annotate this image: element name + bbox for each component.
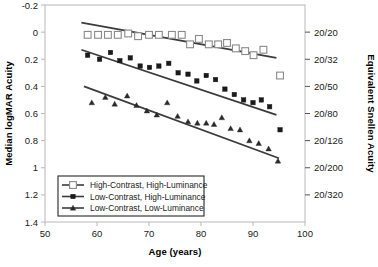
data-point-filled-square [71,194,75,198]
y-tick-label: 0.2 [25,54,38,65]
x-axis-title: Age (years) [149,246,202,257]
data-point-filled-square [213,77,217,81]
x-tick-label: 70 [144,228,155,239]
legend-label-2: Low-Contrast, Low-Luminance [90,203,204,213]
data-point-open-square [187,41,194,48]
data-point-open-square [146,31,153,38]
y-axis-title: Median logMAR Acuity [3,61,14,166]
data-point-open-square [105,31,112,38]
data-point-filled-square [204,73,208,77]
x-tick-label: 90 [248,228,259,239]
y2-tick-label: 20/20 [314,27,338,38]
data-point-filled-square [186,72,190,76]
data-point-open-square [232,45,239,52]
data-point-filled-square [128,56,132,60]
data-point-filled-square [85,53,89,57]
y2-tick-label: 20/126 [314,135,343,146]
data-point-open-square [277,72,284,79]
y-tick-label: 1.2 [25,189,38,200]
data-point-filled-square [147,65,151,69]
data-point-filled-square [108,50,112,54]
y2-tick-label: 20/200 [314,162,343,173]
data-point-filled-square [138,64,142,68]
y2-axis-title: Equivalent Snellen Acuity [366,54,377,173]
legend: High-Contrast, High-LuminanceLow-Contras… [58,176,208,216]
y2-tick-label: 20/80 [314,108,338,119]
legend-label-1: Low-Contrast, High-Luminance [90,192,206,202]
acuity-vs-age-chart: -0.200.20.40.60.811.21.420/2020/3220/502… [0,0,378,267]
legend-label-0: High-Contrast, High-Luminance [90,180,208,190]
data-point-filled-square [223,87,227,91]
data-point-open-square [242,48,249,55]
data-point-filled-square [176,71,180,75]
data-point-open-square [224,40,231,47]
y-tick-label: 0 [33,27,38,38]
data-point-open-square [135,33,142,40]
data-point-filled-square [278,128,282,132]
x-tick-label: 50 [40,228,51,239]
data-point-open-square [155,31,162,38]
data-point-open-square [205,41,212,48]
data-point-open-square [215,41,222,48]
chart-canvas: -0.200.20.40.60.811.21.420/2020/3220/502… [0,0,378,267]
data-point-filled-square [97,57,101,61]
data-point-open-square [196,36,203,43]
data-point-filled-square [167,61,171,65]
data-point-open-square [70,182,77,189]
data-point-filled-square [241,98,245,102]
data-point-filled-square [232,92,236,96]
data-point-open-square [260,46,267,53]
data-point-filled-square [267,105,271,109]
y-tick-label: 1.4 [25,217,38,228]
data-point-filled-square [118,58,122,62]
data-point-open-square [114,31,121,38]
data-point-filled-square [259,98,263,102]
y-tick-label: 0.8 [25,135,38,146]
x-tick-label: 80 [196,228,207,239]
data-point-filled-square [251,100,255,104]
data-point-filled-square [195,79,199,83]
y2-tick-label: 20/32 [314,54,338,65]
data-point-open-square [168,31,175,38]
x-tick-label: 100 [297,228,313,239]
y2-tick-label: 20/50 [314,81,338,92]
y-tick-label: 0.6 [25,108,38,119]
y-tick-label: 1 [33,162,38,173]
y-tick-label: 0.4 [25,81,38,92]
data-point-open-square [125,30,132,37]
y-tick-label: -0.2 [22,0,38,11]
y2-tick-label: 20/320 [314,189,343,200]
data-point-open-square [178,31,185,38]
x-tick-label: 60 [92,228,103,239]
data-point-open-square [250,52,257,59]
data-point-filled-square [157,64,161,68]
data-point-open-square [84,31,91,38]
data-point-open-square [95,31,102,38]
